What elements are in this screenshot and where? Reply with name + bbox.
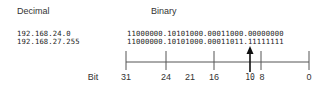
tick-label-16: 16	[209, 72, 219, 82]
tick-label-31: 31	[121, 72, 131, 82]
label-21: 21	[185, 72, 195, 82]
arrow-label-10: 10	[245, 73, 255, 82]
arrow-icon	[247, 46, 254, 72]
tick-label-0: 0	[306, 72, 311, 82]
tick-label-8: 8	[259, 72, 264, 82]
tick-label-24: 24	[161, 72, 171, 82]
bit-axis-label: Bit	[88, 72, 99, 82]
